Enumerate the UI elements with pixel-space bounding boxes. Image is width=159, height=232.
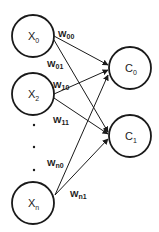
ellipsis-dot [33,124,35,126]
weight-label-w01: W01 [47,59,63,70]
node-x2: X2 [12,73,54,115]
edge-xn-c0 [55,75,108,195]
node-x0: X0 [12,15,54,57]
weight-labels: W00W01W10W11Wn0Wn1 [47,29,87,200]
node-c0: C0 [109,47,151,89]
weight-label-wn1: Wn1 [70,189,87,200]
weight-label-w00: W00 [58,29,74,40]
neural-network-diagram: X0X2XnC0C1 W00W01W10W11Wn0Wn1 [0,0,159,232]
node-xn: Xn [12,182,54,224]
weight-label-w11: W11 [53,115,69,126]
weight-label-wn0: Wn0 [47,158,64,169]
ellipsis-dots [33,124,35,171]
ellipsis-dot [33,146,35,148]
node-c1: C1 [109,115,151,157]
weight-label-w10: W10 [53,80,69,91]
edge-x2-c1 [54,98,108,134]
edge-x0-c0 [54,36,108,65]
edges-group [54,36,108,195]
ellipsis-dot [33,169,35,171]
